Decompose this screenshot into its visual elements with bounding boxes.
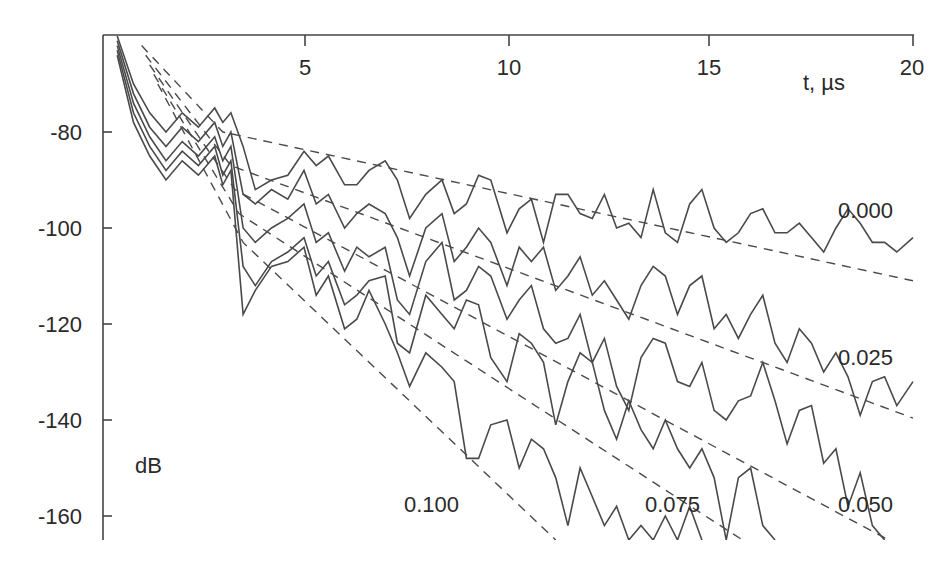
trend-line-0-100 <box>158 84 556 540</box>
y-tick-label: -100 <box>38 216 82 241</box>
series-labels: 0.000 0.025 0.050 0.075 0.100 <box>404 198 893 517</box>
curve-0-050 <box>117 46 884 540</box>
series-label-0-050: 0.050 <box>838 492 893 517</box>
y-tick-label: -80 <box>50 120 82 145</box>
decay-chart: 5 10 15 20 t, µs -80 -100 -120 -140 -160… <box>0 0 947 571</box>
plot-area <box>117 36 913 540</box>
series-label-0-000: 0.000 <box>838 198 893 223</box>
x-tick-label: 5 <box>299 55 311 80</box>
x-tick-label: 15 <box>697 55 721 80</box>
series-label-0-075: 0.075 <box>645 492 700 517</box>
trend-lines <box>142 46 913 540</box>
y-tick-label: -120 <box>38 312 82 337</box>
x-tick-label: 20 <box>900 55 924 80</box>
series-label-0-025: 0.025 <box>838 345 893 370</box>
x-axis-label: t, µs <box>803 70 845 95</box>
y-axis-label: dB <box>135 453 162 478</box>
y-ticks: -80 -100 -120 -140 -160 <box>38 120 112 529</box>
series-label-0-100: 0.100 <box>404 492 459 517</box>
data-curves <box>117 36 913 540</box>
y-tick-label: -160 <box>38 504 82 529</box>
x-tick-label: 10 <box>497 55 521 80</box>
trend-line-0-000 <box>142 46 913 281</box>
y-tick-label: -140 <box>38 408 82 433</box>
